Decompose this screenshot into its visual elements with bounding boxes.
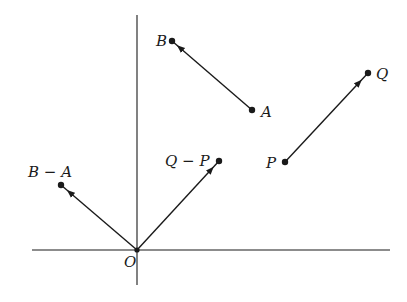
arrowhead-b-minus-a	[70, 193, 72, 195]
label-q: Q	[376, 65, 388, 83]
vector-o-to-q-minus-p	[137, 161, 219, 250]
vector-o-to-b-minus-a	[61, 185, 137, 250]
point-a	[249, 107, 255, 113]
point-q	[365, 70, 371, 76]
label-p: P	[265, 154, 277, 172]
label-b: B	[155, 32, 167, 50]
vector-a-to-b	[172, 41, 252, 110]
point-q-minus-p	[216, 158, 222, 164]
label-origin: O	[124, 253, 136, 271]
point-p	[282, 159, 288, 165]
label-b-minus-a: B − A	[27, 163, 72, 181]
label-q-minus-p: Q − P	[165, 152, 210, 170]
origin-point	[134, 247, 139, 252]
point-b-minus-a	[58, 182, 64, 188]
label-a: A	[259, 103, 272, 121]
point-b	[169, 38, 175, 44]
vector-diagram: B A Q P B − A Q − P O	[0, 0, 407, 302]
vector-p-to-q	[285, 73, 368, 162]
arrowhead-b	[180, 48, 182, 50]
